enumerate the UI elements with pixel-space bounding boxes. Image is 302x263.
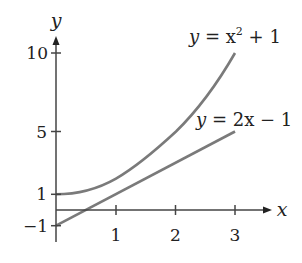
y-axis-label: y: [50, 9, 62, 31]
x-tick-2: 2: [170, 225, 181, 245]
x-tick-1: 1: [111, 225, 122, 245]
y-tick-1: 1: [36, 184, 47, 204]
line-curve: [56, 132, 235, 226]
parabola-label: y = x2 + 1: [188, 25, 281, 47]
ticks: [51, 53, 235, 226]
y-axis-arrow-icon: [53, 36, 60, 45]
x-axis-label: x: [277, 198, 288, 220]
x-tick-3: 3: [230, 225, 241, 245]
chart: 1 2 3 10 5 1 −1 y x y = x2 + 1 y = 2x − …: [0, 0, 302, 263]
x-axis-arrow-icon: [263, 207, 272, 214]
y-tick-minus1: −1: [23, 216, 48, 236]
y-tick-5: 5: [36, 122, 47, 142]
y-tick-10: 10: [26, 43, 48, 63]
line-label: y = 2x − 1: [195, 109, 292, 130]
